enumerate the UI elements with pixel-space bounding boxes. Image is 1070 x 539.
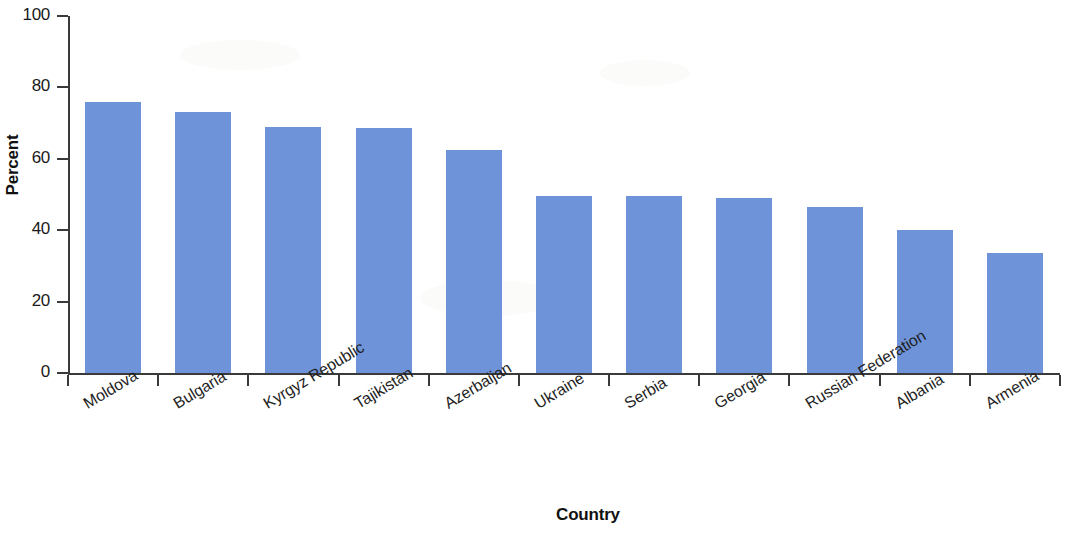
bar-chart: Percent 020406080100 MoldovaBulgariaKyrg… bbox=[0, 0, 1070, 539]
x-axis-tick bbox=[969, 375, 971, 386]
x-axis-tick bbox=[879, 375, 881, 386]
y-axis-tick bbox=[57, 158, 68, 160]
x-axis-tick bbox=[338, 375, 340, 386]
x-axis-tick bbox=[428, 375, 430, 386]
bar bbox=[536, 196, 592, 373]
x-axis-category-label: Albania bbox=[892, 370, 946, 413]
bar bbox=[716, 198, 772, 373]
bar bbox=[265, 127, 321, 373]
scan-artifact bbox=[600, 60, 690, 86]
y-axis-tick bbox=[57, 229, 68, 231]
x-axis-tick bbox=[1059, 375, 1061, 386]
x-axis-tick bbox=[67, 375, 69, 386]
x-axis-tick bbox=[247, 375, 249, 386]
x-axis-tick bbox=[157, 375, 159, 386]
y-axis-tick-label: 100 bbox=[4, 5, 50, 25]
scan-artifact bbox=[180, 40, 300, 70]
x-axis-tick bbox=[608, 375, 610, 386]
x-axis-title: Country bbox=[0, 505, 1070, 525]
y-axis-tick bbox=[57, 372, 68, 374]
y-axis-tick bbox=[57, 86, 68, 88]
x-axis-tick bbox=[518, 375, 520, 386]
bar bbox=[807, 207, 863, 373]
x-axis-title-text: Country bbox=[556, 505, 620, 525]
y-axis-tick bbox=[57, 301, 68, 303]
bar bbox=[356, 128, 412, 373]
y-axis-tick-label: 60 bbox=[4, 148, 50, 168]
y-axis-tick-label: 40 bbox=[4, 219, 50, 239]
bar bbox=[175, 112, 231, 373]
bar bbox=[85, 102, 141, 373]
x-axis-category-label: Serbia bbox=[622, 374, 670, 413]
y-axis-tick-label: 80 bbox=[4, 76, 50, 96]
x-axis-category-label: Ukraine bbox=[531, 369, 587, 412]
y-axis-line bbox=[68, 16, 70, 374]
bar bbox=[446, 150, 502, 373]
bar bbox=[626, 196, 682, 373]
y-axis-tick-label: 0 bbox=[4, 362, 50, 382]
y-axis-tick bbox=[57, 15, 68, 17]
bar bbox=[987, 253, 1043, 373]
y-axis-tick-label: 20 bbox=[4, 291, 50, 311]
x-axis-tick bbox=[698, 375, 700, 386]
x-axis-tick bbox=[788, 375, 790, 386]
